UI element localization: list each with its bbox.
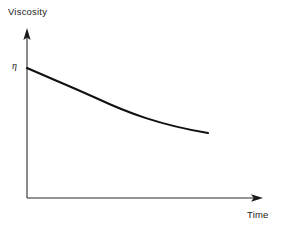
x-axis-label: Time bbox=[247, 209, 269, 220]
y-axis-label: Viscosity bbox=[8, 6, 47, 17]
chart-canvas bbox=[0, 0, 283, 230]
y-axis bbox=[23, 28, 30, 198]
x-axis bbox=[27, 194, 263, 201]
initial-viscosity-annotation: η bbox=[12, 61, 17, 71]
viscosity-time-figure: Viscosity Time η bbox=[0, 0, 283, 230]
viscosity-decay-curve bbox=[27, 68, 208, 133]
